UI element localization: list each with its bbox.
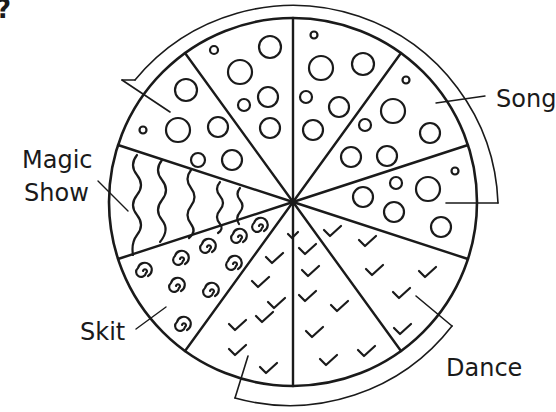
magic-show-label-line2: Show <box>24 178 89 208</box>
dance-bracket <box>235 296 452 405</box>
skit-label: Skit <box>80 317 125 347</box>
dance-label: Dance <box>446 353 522 383</box>
center-dot <box>290 199 297 206</box>
magic-show-waves <box>133 155 243 255</box>
magic-show-label-line1: Magic <box>22 145 93 175</box>
magic-show-leader-line <box>98 181 128 211</box>
song-circles <box>140 32 459 238</box>
question-mark-fragment: ? <box>0 0 11 24</box>
song-label: Song <box>496 84 556 114</box>
